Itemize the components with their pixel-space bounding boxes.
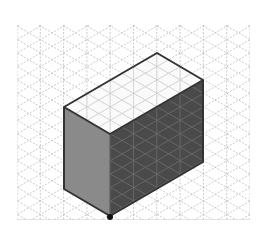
isometric-diagram [0,0,262,228]
bottom-vertex-dot [107,214,113,220]
rectangular-prism [0,0,262,228]
